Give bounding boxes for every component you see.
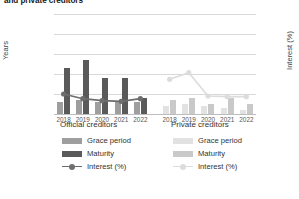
legend-label-maturity: Maturity <box>198 149 225 158</box>
legend-swatch-grace-icon <box>173 138 193 144</box>
y2-axis-label: Interest (%) <box>285 31 294 70</box>
legend-label-grace: Grace period <box>198 136 242 145</box>
x-tick-label: 2022 <box>233 116 259 123</box>
legend-item-maturity-official: Maturity <box>62 147 131 160</box>
legend-private: Grace period Maturity Interest (%) <box>173 134 242 173</box>
interest-marker <box>167 77 172 82</box>
panel-title-official: Official creditors <box>60 120 117 129</box>
legend-item-grace-private: Grace period <box>173 134 242 147</box>
gridline <box>54 114 256 115</box>
legend-swatch-maturity-icon <box>173 151 193 157</box>
legend-swatch-maturity-icon <box>62 151 82 157</box>
chart-root: and private creditors Years Interest (%)… <box>0 0 299 199</box>
chart-title: and private creditors <box>4 0 224 6</box>
interest-line-official <box>54 14 150 114</box>
legend-item-maturity-private: Maturity <box>173 147 242 160</box>
legend-label-interest: Interest (%) <box>198 162 237 171</box>
plot-area: 01020304050 03691215 2018201920202021202… <box>54 14 256 114</box>
y-axis-label: Years <box>1 41 10 60</box>
panel-official: 20182019202020212022 <box>54 14 150 114</box>
legend-item-grace-official: Grace period <box>62 134 131 147</box>
interest-marker <box>99 98 104 103</box>
legend-line-marker-icon <box>173 163 193 171</box>
x-tick-label: 2022 <box>127 116 153 123</box>
interest-marker <box>138 96 143 101</box>
interest-marker <box>61 91 66 96</box>
interest-marker <box>186 70 191 75</box>
legend-label-grace: Grace period <box>87 136 131 145</box>
interest-marker <box>244 94 249 99</box>
legend-official: Grace period Maturity Interest (%) <box>62 134 131 173</box>
legend-label-interest: Interest (%) <box>87 162 126 171</box>
interest-marker <box>80 96 85 101</box>
legend-item-interest-official: Interest (%) <box>62 160 131 173</box>
interest-marker <box>225 94 230 99</box>
legend-line-marker-icon <box>62 163 82 171</box>
legend-item-interest-private: Interest (%) <box>173 160 242 173</box>
interest-marker <box>119 99 124 104</box>
interest-line-private <box>160 14 256 114</box>
interest-marker <box>205 93 210 98</box>
legend-label-maturity: Maturity <box>87 149 114 158</box>
panel-title-private: Private creditors <box>171 120 229 129</box>
legend-swatch-grace-icon <box>62 138 82 144</box>
panel-private: 20182019202020212022 <box>160 14 256 114</box>
